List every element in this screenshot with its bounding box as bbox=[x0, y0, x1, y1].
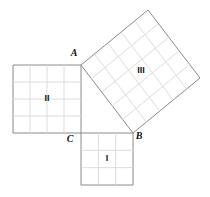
pythagorean-theorem-figure: II I III A B C bbox=[0, 0, 210, 197]
square-1-group: I bbox=[81, 133, 133, 185]
square-2-label: II bbox=[44, 93, 49, 103]
square-3-group: III bbox=[81, 10, 200, 133]
vertex-label-c: C bbox=[67, 133, 74, 144]
square-1-label: I bbox=[106, 153, 109, 163]
vertex-label-b: B bbox=[135, 130, 143, 141]
square-3-label: III bbox=[137, 65, 145, 75]
vertex-label-a: A bbox=[70, 47, 78, 58]
square-2-group: II bbox=[13, 65, 81, 133]
